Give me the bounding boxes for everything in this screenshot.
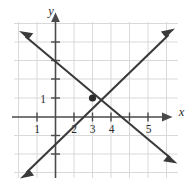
x-axis-arrow-icon <box>162 113 173 122</box>
intersection-point-dot <box>89 94 96 101</box>
x-tick-label-5: 5 <box>146 123 152 135</box>
x-tick-label-4: 4 <box>109 123 115 135</box>
x-tick-label-2: 2 <box>71 123 77 135</box>
x-tick-label-3: 3 <box>90 123 96 135</box>
falling-line-arrow-end-icon <box>163 155 177 163</box>
coordinate-plane-figure: 1 2 3 4 5 1 y x <box>0 0 191 185</box>
x-tick-label-1: 1 <box>34 123 40 135</box>
x-axis-label: x <box>178 105 185 119</box>
y-axis-label: y <box>46 4 54 18</box>
graph-canvas: 1 2 3 4 5 1 y x <box>0 0 191 185</box>
y-axis <box>51 13 60 179</box>
y-tick-label-1: 1 <box>40 93 46 105</box>
